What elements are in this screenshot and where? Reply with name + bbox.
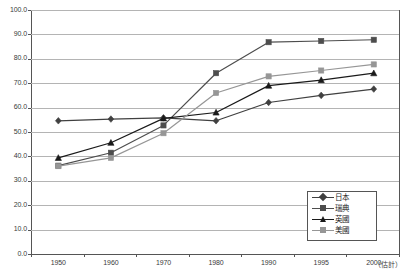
y-axis-ticks	[28, 11, 31, 255]
x-tick-label: 1950	[38, 259, 78, 266]
data-point-marker	[108, 155, 113, 160]
data-point-marker	[371, 62, 376, 67]
x-axis-estimate-note: （估計）	[374, 259, 402, 269]
data-point-marker	[319, 38, 324, 43]
legend-symbol-triangle-icon	[311, 214, 335, 225]
data-point-marker	[266, 40, 271, 45]
legend-label: 英國	[335, 214, 349, 225]
x-tick-label: 1995	[301, 259, 341, 266]
x-tick-label: 1960	[91, 259, 131, 266]
legend-marker-icon	[319, 193, 327, 201]
legend-symbol-square-icon	[311, 203, 335, 214]
data-point-marker	[161, 131, 166, 136]
x-tick-label: 1980	[196, 259, 236, 266]
legend-label: 美國	[335, 225, 349, 236]
y-tick-label: 60.0	[1, 103, 27, 110]
y-tick-label: 30.0	[1, 176, 27, 183]
legend-item: 日本	[308, 192, 376, 203]
legend-label: 瑞典	[335, 203, 349, 214]
y-tick-label: 0.0	[1, 250, 27, 257]
y-tick-label: 70.0	[1, 79, 27, 86]
y-tick-label: 50.0	[1, 128, 27, 135]
data-point-marker	[266, 74, 271, 79]
legend-marker-icon	[320, 216, 326, 222]
y-tick-label: 20.0	[1, 201, 27, 208]
data-point-marker	[213, 90, 218, 95]
legend-symbol-diamond-icon	[311, 192, 335, 203]
chart-container: 0.010.020.030.040.050.060.070.080.090.01…	[0, 0, 414, 274]
legend-item: 英國	[308, 214, 376, 225]
data-point-marker	[213, 71, 218, 76]
y-tick-label: 80.0	[1, 54, 27, 61]
legend-marker-icon	[320, 227, 326, 233]
legend-item: 瑞典	[308, 203, 376, 214]
y-tick-label: 100.0	[1, 6, 27, 13]
data-point-marker	[319, 68, 324, 73]
data-point-marker	[56, 164, 61, 169]
legend-item: 美國	[308, 225, 376, 236]
legend-label: 日本	[335, 192, 349, 203]
data-point-marker	[108, 150, 113, 155]
y-tick-label: 90.0	[1, 30, 27, 37]
legend-marker-icon	[320, 205, 326, 211]
legend-symbol-square-icon	[311, 225, 335, 236]
x-tick-label: 1990	[249, 259, 289, 266]
data-point-marker	[371, 37, 376, 42]
chart-legend: 日本瑞典英國美國	[307, 191, 377, 241]
x-tick-label: 1970	[143, 259, 183, 266]
data-point-marker	[161, 123, 166, 128]
y-tick-label: 40.0	[1, 152, 27, 159]
y-tick-label: 10.0	[1, 225, 27, 232]
